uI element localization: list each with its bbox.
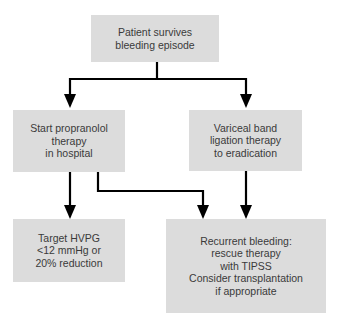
node-text: Recurrent bleeding: [200, 235, 292, 248]
node-text: Consider transplantation [189, 272, 303, 285]
node-text: bleeding episode [115, 39, 194, 52]
arrowhead-icon [197, 205, 209, 219]
node-recurrent-bleeding: Recurrent bleeding: rescue therapy with … [166, 219, 326, 313]
node-text: in hospital [45, 147, 92, 160]
arrowhead-icon [240, 205, 252, 219]
node-text: with TIPSS [220, 260, 272, 273]
node-text: 20% reduction [35, 257, 102, 270]
node-text: Patient survives [118, 26, 192, 39]
node-text: to eradication [214, 147, 277, 160]
connector-propranolol-rescue [98, 172, 203, 207]
node-text: Start propranolol [30, 122, 108, 135]
node-text: if appropriate [215, 285, 276, 298]
node-text: ligation therapy [210, 134, 281, 147]
node-text: Variceal band [214, 122, 277, 135]
connector-start-branches [70, 79, 246, 97]
flowchart: Patient survives bleeding episode Start … [0, 0, 337, 327]
node-text: Target HVPG [38, 232, 100, 245]
node-variceal-band-ligation: Variceal band ligation therapy to eradic… [189, 110, 302, 171]
arrowhead-icon [64, 94, 76, 108]
node-patient-survives: Patient survives bleeding episode [91, 15, 219, 62]
node-target-hvpg: Target HVPG <12 mmHg or 20% reduction [13, 219, 125, 282]
node-text: rescue therapy [211, 247, 280, 260]
arrowhead-icon [64, 205, 76, 219]
arrowhead-icon [240, 94, 252, 108]
node-text: <12 mmHg or [37, 244, 101, 257]
node-start-propranolol: Start propranolol therapy in hospital [13, 110, 125, 172]
node-text: therapy [51, 135, 86, 148]
